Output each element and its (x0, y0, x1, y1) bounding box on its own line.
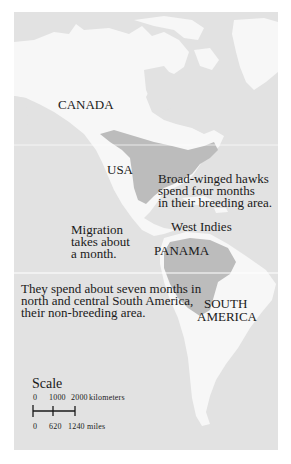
scale-mile-tick: 0 (33, 422, 49, 431)
scale-km-tick: 0 (33, 393, 49, 402)
label-west-indies: West Indies (171, 220, 232, 233)
scale-mile-tick: 620 (49, 422, 68, 431)
label-canada: CANADA (58, 98, 114, 111)
scale-mile-row: 06201240miles (33, 422, 105, 431)
note-breeding-line: in their breeding area. (158, 197, 272, 209)
note-migration: Migration takes about a month. (71, 224, 130, 260)
scale-mile-unit: miles (87, 422, 105, 431)
scale-bar (32, 404, 82, 418)
scale-title: Scale (32, 376, 62, 392)
note-nonbreeding: They spend about seven months in north a… (21, 283, 201, 319)
scale-km-tick: 2000 (71, 393, 89, 402)
scale-km-row: 010002000kilometers (33, 393, 125, 402)
label-panama: PANAMA (154, 244, 209, 257)
note-migration-line: a month. (71, 248, 130, 260)
scale-km-unit: kilometers (89, 393, 125, 402)
note-breeding: Broad-winged hawks spend four months in … (158, 173, 272, 209)
label-america: AMERICA (197, 310, 257, 323)
scale-km-tick: 1000 (49, 393, 71, 402)
label-usa: USA (107, 163, 133, 176)
note-nonbreeding-line: their non-breeding area. (21, 307, 201, 319)
scale-mile-tick: 1240 (68, 422, 87, 431)
